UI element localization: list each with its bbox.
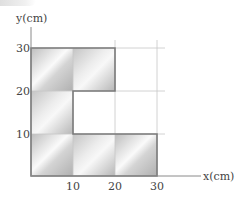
y-tick-label: 30 [16,42,30,55]
lamina-figure: y(cm) x(cm) 30 20 10 10 20 30 [0,0,247,199]
y-axis-label: y(cm) [15,12,47,25]
x-axis-label: x(cm) [203,170,234,183]
lamina-shape [31,48,157,176]
x-tick-label: 10 [66,180,80,193]
y-tick-label: 10 [16,128,30,141]
x-tick-label: 30 [150,180,164,193]
x-tick-label: 20 [108,180,122,193]
y-tick-label: 20 [16,85,30,98]
